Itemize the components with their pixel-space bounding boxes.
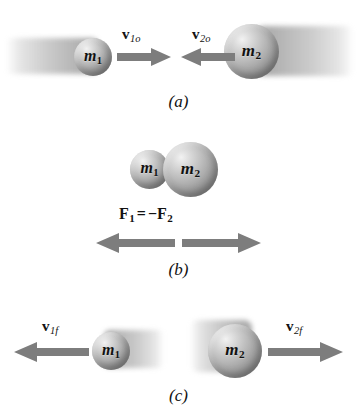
mass-1-sphere: m1 <box>92 332 130 370</box>
velocity-2-initial-label: v2o <box>192 27 211 44</box>
panel-c-caption: (c) <box>0 386 357 406</box>
force-on-1-arrow <box>95 232 175 254</box>
velocity-1-initial-label: v1o <box>122 27 141 44</box>
panel-b: m1 m2 F1=−F2 (b) <box>0 120 357 292</box>
velocity-1-initial-arrow <box>117 47 172 67</box>
panel-a: m1 m2 v1o v2o (a) <box>0 0 357 120</box>
velocity-2-final-arrow <box>268 341 344 363</box>
panel-b-caption: (b) <box>0 260 357 280</box>
mass-2-label: m2 <box>242 42 261 61</box>
force-on-2-arrow <box>182 232 262 254</box>
velocity-1-final-label: v1f <box>42 319 58 336</box>
velocity-2-final-label: v2f <box>286 319 302 336</box>
panel-c: m1 m2 v1f v2f (c) <box>0 292 357 412</box>
newtons-third-law-equation: F1=−F2 <box>119 206 173 224</box>
mass-1-label: m1 <box>140 160 158 178</box>
velocity-1-final-arrow <box>13 341 89 363</box>
collision-figure: m1 m2 v1o v2o (a) <box>0 0 357 412</box>
mass-1-sphere: m1 <box>74 38 112 76</box>
mass-2-sphere: m2 <box>163 142 218 197</box>
velocity-2-initial-arrow <box>180 47 235 67</box>
panel-a-caption: (a) <box>0 92 357 112</box>
mass-1-label: m1 <box>84 48 102 66</box>
mass-2-label: m2 <box>181 160 200 179</box>
mass-1-label: m1 <box>102 342 120 360</box>
mass-2-sphere: m2 <box>208 324 262 378</box>
mass-2-label: m2 <box>225 341 244 360</box>
